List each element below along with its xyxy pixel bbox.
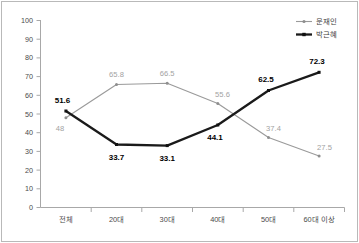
x-tick-label: 20대 <box>109 215 124 224</box>
chart-legend: 문재인 박근혜 <box>296 17 337 39</box>
y-tick-label: 50 <box>25 110 33 119</box>
x-tick-marks <box>91 208 344 213</box>
y-tick-labels: 100 90 80 70 60 50 40 30 20 10 0 <box>21 16 33 212</box>
legend-dot-icon <box>302 20 305 23</box>
series-park-geun-hye <box>64 71 320 147</box>
park-line <box>66 72 319 145</box>
x-tick-labels: 전체 20대 30대 40대 50대 60대 이상 <box>59 215 335 224</box>
chart-svg: 100 90 80 70 60 50 40 30 20 10 0 전체 20대 … <box>0 0 359 243</box>
park-data-labels: 51.6 33.7 33.1 44.1 62.5 72.3 <box>55 57 326 163</box>
moon-data-labels: 48 65.8 66.5 55.6 37.4 27.5 <box>56 69 332 152</box>
data-label-moon: 48 <box>56 124 64 133</box>
data-label-moon: 65.8 <box>109 70 124 79</box>
y-tick-label: 30 <box>25 147 33 156</box>
y-tick-label: 90 <box>25 35 33 44</box>
data-label-moon: 37.4 <box>266 124 281 133</box>
legend-square-icon <box>302 33 305 36</box>
y-tick-label: 0 <box>29 203 33 212</box>
data-label-park: 33.7 <box>109 153 125 162</box>
data-label-park: 44.1 <box>207 133 223 142</box>
y-tick-label: 40 <box>25 128 33 137</box>
data-label-moon: 27.5 <box>317 143 332 152</box>
y-tick-marks <box>37 21 41 208</box>
data-label-park: 51.6 <box>55 96 71 105</box>
x-tick-label: 60대 이상 <box>303 215 334 224</box>
line-chart: 100 90 80 70 60 50 40 30 20 10 0 전체 20대 … <box>0 0 359 243</box>
series-moon-jae-in <box>64 82 320 158</box>
legend-item-park-geun-hye[interactable]: 박근혜 <box>296 30 337 39</box>
data-label-park: 62.5 <box>258 75 274 84</box>
x-tick-label: 40대 <box>210 215 225 224</box>
data-label-park: 72.3 <box>309 57 325 66</box>
x-tick-label: 30대 <box>160 215 175 224</box>
y-tick-label: 100 <box>21 16 33 25</box>
y-tick-label: 60 <box>25 91 33 100</box>
y-tick-label: 80 <box>25 53 33 62</box>
y-tick-label: 70 <box>25 72 33 81</box>
legend-label-park-geun-hye: 박근혜 <box>316 30 337 39</box>
data-label-moon: 66.5 <box>160 69 175 78</box>
y-tick-label: 20 <box>25 166 33 175</box>
x-tick-label: 전체 <box>59 215 73 224</box>
data-label-moon: 55.6 <box>215 90 230 99</box>
y-tick-label: 10 <box>25 184 33 193</box>
data-label-park: 33.1 <box>159 154 175 163</box>
legend-label-moon-jae-in: 문재인 <box>316 17 337 26</box>
moon-line <box>66 83 319 156</box>
x-tick-label: 50대 <box>261 215 276 224</box>
legend-item-moon-jae-in[interactable]: 문재인 <box>296 17 337 26</box>
